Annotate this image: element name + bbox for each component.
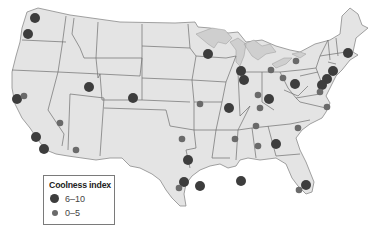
- city-dot-high: [224, 103, 234, 113]
- city-dot-high: [236, 66, 246, 76]
- city-dot-low: [280, 75, 287, 82]
- city-dot-high: [183, 155, 193, 165]
- city-dot-high: [271, 139, 281, 149]
- city-dot-low: [293, 58, 300, 65]
- legend-item-low: 0–5: [49, 207, 109, 218]
- legend: Coolness index 6–10 0–5: [43, 175, 115, 225]
- city-dot-high: [203, 49, 213, 59]
- legend-item-high: 6–10: [49, 193, 109, 204]
- legend-label-high: 6–10: [65, 194, 85, 204]
- city-dot-low: [57, 120, 64, 127]
- city-dot-high: [236, 176, 246, 186]
- city-dot-high: [239, 75, 249, 85]
- large-dot-icon: [50, 194, 59, 203]
- city-dot-low: [232, 136, 239, 143]
- city-dot-high: [12, 94, 22, 104]
- city-dot-low: [255, 143, 262, 150]
- legend-title: Coolness index: [49, 179, 104, 190]
- city-dot-high: [128, 93, 138, 103]
- city-dot-low: [268, 67, 275, 74]
- city-dot-low: [296, 187, 303, 194]
- city-dot-high: [343, 48, 353, 58]
- city-dot-high: [264, 94, 274, 104]
- city-dot-low: [324, 104, 331, 111]
- city-dot-low: [295, 125, 302, 132]
- city-dot-high: [23, 29, 33, 39]
- city-dot-high: [195, 181, 205, 191]
- city-dot-high: [290, 79, 300, 89]
- city-dot-low: [257, 105, 264, 112]
- city-dot-low: [253, 123, 260, 130]
- city-dot-high: [301, 180, 311, 190]
- city-dot-low: [73, 147, 80, 154]
- city-dot-low: [21, 93, 28, 100]
- city-dot-high: [328, 66, 338, 76]
- city-dot-high: [39, 144, 49, 154]
- city-dot-low: [317, 89, 324, 96]
- city-dot-high: [317, 80, 327, 90]
- small-dot-icon: [52, 210, 58, 216]
- city-dot-high: [30, 13, 40, 23]
- legend-label-low: 0–5: [65, 208, 80, 218]
- city-dot-low: [255, 92, 262, 99]
- city-dot-high: [31, 132, 41, 142]
- city-dot-high: [84, 82, 94, 92]
- city-dot-low: [179, 136, 186, 143]
- city-dot-low: [197, 101, 204, 108]
- city-dot-low: [176, 185, 183, 192]
